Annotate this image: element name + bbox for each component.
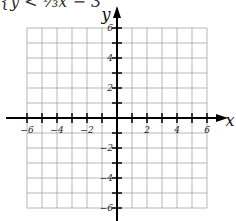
y-tick-label: −6 (100, 203, 114, 213)
x-tick-label: 4 (173, 125, 180, 135)
x-tick-label: 2 (143, 125, 150, 135)
y-tick-label: 6 (107, 23, 113, 33)
x-tick-label: −6 (20, 125, 34, 135)
x-tick-label: −4 (50, 125, 64, 135)
x-tick-label: 6 (204, 125, 210, 135)
y-tick-label: 4 (106, 53, 113, 63)
x-tick-label: −2 (80, 125, 94, 135)
y-tick-label: −2 (100, 143, 114, 153)
y-axis-label: y (100, 5, 111, 24)
x-axis-label: x (225, 111, 234, 130)
coordinate-grid: −6−4−2246642−2−4−6xy (0, 0, 236, 221)
y-tick-label: −4 (100, 173, 114, 183)
y-axis-arrow-icon (113, 6, 121, 18)
y-tick-label: 2 (106, 83, 113, 93)
